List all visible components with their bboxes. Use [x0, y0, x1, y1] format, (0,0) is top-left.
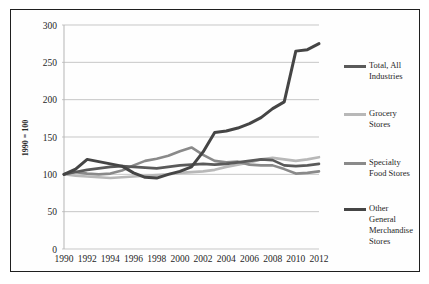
chart-legend: Total, All IndustriesGrocery StoresSpeci…	[344, 10, 416, 270]
legend-item-total-all-industries: Total, All Industries	[344, 60, 403, 82]
y-tick-label-300: 300	[43, 21, 58, 31]
x-tick-label-2006: 2006	[240, 254, 259, 264]
x-tick-label-1996: 1996	[124, 254, 143, 264]
x-tick-label-1998: 1998	[147, 254, 166, 264]
x-tick-label-2004: 2004	[217, 254, 236, 264]
x-tick-label-2000: 2000	[170, 254, 189, 264]
y-tick-label-150: 150	[43, 133, 58, 143]
figure-frame: 0501001502002503001990199219941996199820…	[10, 9, 420, 272]
y-tick-label-250: 250	[43, 58, 58, 68]
legend-swatch-line-icon	[344, 208, 366, 211]
x-tick-label-2008: 2008	[263, 254, 282, 264]
legend-label: Grocery Stores	[369, 108, 397, 130]
legend-swatch-line-icon	[344, 162, 366, 165]
x-tick-label-2002: 2002	[194, 254, 213, 264]
legend-swatch-line-icon	[344, 113, 366, 116]
y-tick-label-0: 0	[52, 245, 57, 255]
legend-swatch-line-icon	[344, 65, 366, 68]
legend-item-other-general-merchandise-stores: Other General Merchandise Stores	[344, 203, 413, 247]
y-axis-title: 1990 = 100	[21, 120, 30, 157]
legend-item-specialty-food-stores: Specialty Food Stores	[344, 157, 410, 179]
x-tick-label-1990: 1990	[55, 254, 74, 264]
legend-label: Total, All Industries	[369, 60, 403, 82]
legend-label: Other General Merchandise Stores	[369, 203, 413, 247]
y-tick-label-200: 200	[43, 95, 58, 105]
x-tick-label-2010: 2010	[286, 254, 305, 264]
y-tick-label-100: 100	[43, 170, 58, 180]
y-tick-label-50: 50	[48, 207, 58, 217]
legend-item-grocery-stores: Grocery Stores	[344, 108, 397, 130]
legend-label: Specialty Food Stores	[369, 157, 410, 179]
x-tick-label-2012: 2012	[310, 254, 329, 264]
x-tick-label-1994: 1994	[101, 254, 120, 264]
x-tick-label-1992: 1992	[78, 254, 97, 264]
